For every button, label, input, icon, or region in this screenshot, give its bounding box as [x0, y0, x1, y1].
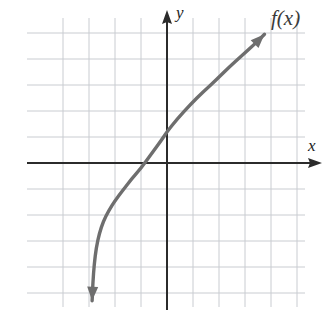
y-axis-arrowhead	[162, 10, 172, 24]
function-curve	[92, 34, 264, 301]
function-curve-group	[87, 34, 264, 301]
graph-canvas	[0, 0, 333, 317]
function-label: f(x)	[271, 8, 300, 29]
graph-figure: y x f(x)	[0, 0, 333, 317]
y-axis-label: y	[176, 4, 184, 21]
x-axis-label: x	[308, 137, 316, 154]
coordinate-axes	[27, 10, 322, 310]
x-axis-arrowhead	[308, 158, 322, 168]
